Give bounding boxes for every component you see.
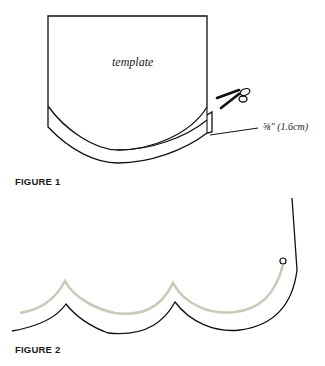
template-label: template: [112, 55, 153, 70]
template-outline: [48, 16, 207, 150]
figure-2-caption: FIGURE 2: [15, 344, 60, 355]
stitch-start-marker: [280, 258, 286, 264]
leader-line: [210, 128, 258, 135]
scissors-icon: [217, 87, 251, 108]
scallop-outline: [12, 198, 297, 334]
seam-allowance-label: ⅝" (1.6cm): [263, 121, 308, 132]
figure-1-caption: FIGURE 1: [15, 176, 60, 187]
seam-allowance-band: [48, 106, 212, 163]
stitch-line: [20, 265, 283, 314]
